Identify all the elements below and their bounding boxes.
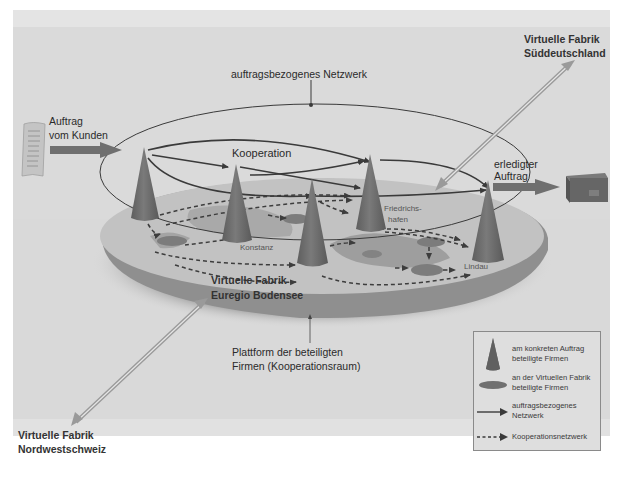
legend: am konkreten Auftrag beteiligte Firmen a…: [473, 331, 601, 451]
dashed-arrow-icon: [476, 432, 510, 442]
legend-item-solid-arrow: auftragsbezogenes Netzwerk: [474, 400, 600, 424]
city-label-friedrichshafen-line1: Friedrichs-: [384, 204, 422, 214]
cone-icon: [480, 336, 506, 372]
city-label-lindau: Lindau: [464, 262, 488, 272]
legend-item-dashed-arrow: Kooperationsnetzwerk: [474, 430, 600, 444]
legend-item-cone: am konkreten Auftrag beteiligte Firmen: [474, 336, 600, 370]
city-label-konstanz: Konstanz: [240, 243, 273, 253]
city-label-friedrichshafen-line2: hafen: [388, 215, 408, 225]
solid-arrow-icon: [476, 407, 510, 417]
legend-item-disc: an der Virtuellen Fabrik beteiligte Firm…: [474, 372, 600, 396]
disc-icon: [478, 380, 508, 390]
